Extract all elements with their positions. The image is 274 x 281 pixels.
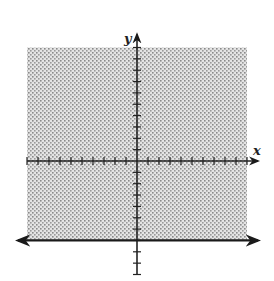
y-axis-label: y [123, 31, 133, 46]
coordinate-plane: x y [0, 0, 274, 281]
x-axis-label: x [252, 143, 261, 158]
